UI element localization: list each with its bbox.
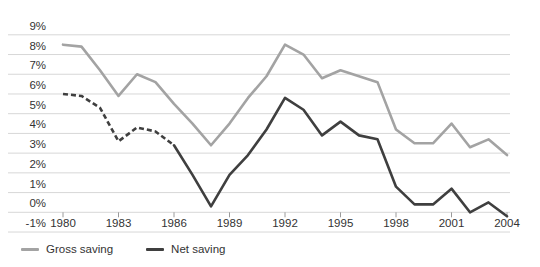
net-saving-line-swatch xyxy=(146,248,164,251)
gross-saving-line-swatch xyxy=(21,248,39,251)
x-axis-label: 1989 xyxy=(217,217,243,229)
y-axis-label: 9% xyxy=(29,20,46,32)
y-axis-label: 1% xyxy=(29,178,46,190)
x-axis-label: 2004 xyxy=(494,217,520,229)
y-axis-label: 2% xyxy=(29,158,46,170)
x-axis-label: 1995 xyxy=(328,217,354,229)
y-axis-label: 8% xyxy=(29,40,46,52)
legend-item-gross-saving: Gross saving xyxy=(21,243,113,255)
legend-item-net-saving: Net saving xyxy=(146,243,225,255)
y-axis-label: -1% xyxy=(26,217,46,229)
net-saving-line-dashed xyxy=(63,94,174,145)
x-axis-label: 1986 xyxy=(161,217,187,229)
y-axis-label: 7% xyxy=(29,59,46,71)
x-axis-label: 1983 xyxy=(106,217,132,229)
y-axis-label: 4% xyxy=(29,118,46,130)
legend-label-net-saving: Net saving xyxy=(171,243,225,255)
x-axis-label: 2001 xyxy=(439,217,465,229)
x-axis-label: 1998 xyxy=(383,217,409,229)
x-axis-label: 1992 xyxy=(272,217,298,229)
net-saving-line-solid xyxy=(174,98,507,216)
chart-legend: Gross saving Net saving xyxy=(21,243,225,255)
saving-rate-chart: 9%8%7%6%5%4%3%2%1%0%-1%19801983198619891… xyxy=(0,0,540,267)
y-axis-label: 3% xyxy=(29,138,46,150)
y-axis-label: 6% xyxy=(29,79,46,91)
y-axis-label: 5% xyxy=(29,99,46,111)
chart-plot-area: 9%8%7%6%5%4%3%2%1%0%-1%19801983198619891… xyxy=(0,0,540,240)
legend-label-gross-saving: Gross saving xyxy=(46,243,113,255)
x-axis-label: 1980 xyxy=(50,217,76,229)
y-axis-label: 0% xyxy=(29,197,46,209)
